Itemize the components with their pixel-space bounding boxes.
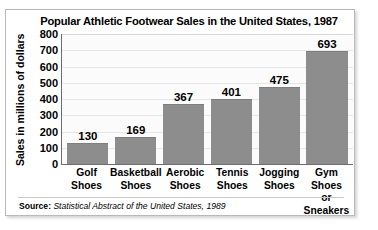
bar-value-jogging-shoes: 475 [255,74,303,86]
bar-value-golf-shoes: 130 [64,130,112,142]
y-tick-800: 800 [40,28,58,40]
y-axis-label: Sales in millions of dollars [14,36,26,166]
y-tick-400: 400 [40,93,58,105]
source-label: Source: [19,201,51,211]
category-line1-golf-shoes: Golf [76,167,97,178]
category-line1-basketball-shoes: Basketball [110,167,162,178]
source-divider [18,197,344,198]
source-note: Source: Statistical Abstract of the Unit… [19,201,226,211]
y-tick-700: 700 [40,44,58,56]
category-line1-jogging-shoes: Jogging [259,167,299,178]
bar-slot-golf-shoes: 130 [64,34,112,164]
category-label-jogging-shoes: Jogging Shoes [256,167,303,217]
bar-gym-shoes-or-sneakers [306,51,347,164]
chart-figure: Popular Athletic Footwear Sales in the U… [5,9,355,216]
source-reference: Statistical Abstract of the United State… [53,201,225,211]
y-tick-500: 500 [40,77,58,89]
bar-value-tennis-shoes: 401 [207,86,255,98]
bar-slot-aerobic-shoes: 367 [160,34,208,164]
category-line1-aerobic-shoes: Aerobic [166,167,204,178]
chart-title: Popular Athletic Footwear Sales in the U… [26,15,352,27]
bar-slot-jogging-shoes: 475 [255,34,303,164]
y-tick-600: 600 [40,61,58,73]
category-line1-tennis-shoes: Tennis [216,167,248,178]
y-tick-200: 200 [40,126,58,138]
y-axis-tick-labels: 800 700 600 500 400 300 200 100 0 [28,34,58,164]
category-line1-gym-shoes-or-sneakers: Gym Shoes [311,167,342,191]
bar-value-basketball-shoes: 169 [112,124,160,136]
bar-series: 130 169 367 401 475 693 [62,34,353,164]
category-label-gym-shoes-or-sneakers: Gym Shoes or Sneakers [303,167,350,217]
bar-tennis-shoes [211,99,252,164]
category-line2-tennis-shoes: Shoes [209,180,256,193]
bar-value-aerobic-shoes: 367 [160,91,208,103]
category-line2-gym-shoes-or-sneakers: or Sneakers [303,192,350,217]
bar-basketball-shoes [115,137,156,164]
plot-area: 130 169 367 401 475 693 [61,34,353,165]
bar-golf-shoes [67,143,108,164]
y-tick-300: 300 [40,109,58,121]
bar-jogging-shoes [259,87,300,164]
bar-slot-basketball-shoes: 169 [112,34,160,164]
category-line2-basketball-shoes: Shoes [110,180,162,193]
bar-slot-tennis-shoes: 401 [207,34,255,164]
category-line2-jogging-shoes: Shoes [256,180,303,193]
category-line2-aerobic-shoes: Shoes [162,180,209,193]
y-tick-0: 0 [52,158,58,170]
bar-value-gym-shoes-or-sneakers: 693 [303,38,351,50]
bar-slot-gym-shoes-or-sneakers: 693 [303,34,351,164]
bar-aerobic-shoes [163,104,204,164]
category-line2-golf-shoes: Shoes [63,180,110,193]
y-tick-100: 100 [40,142,58,154]
